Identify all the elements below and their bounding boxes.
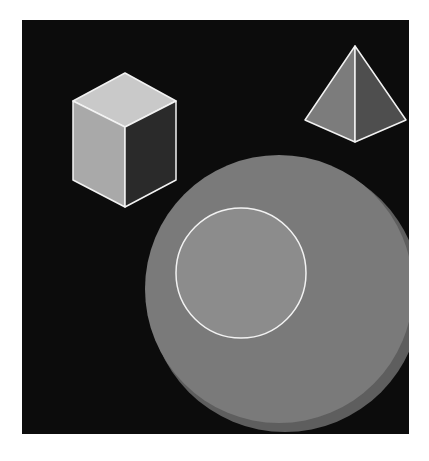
pyramid-left-face — [305, 46, 355, 142]
cube-shape — [73, 73, 176, 207]
pyramid-shape — [305, 46, 406, 142]
scene-canvas — [22, 20, 409, 434]
pyramid-right-face — [355, 46, 406, 142]
scene-svg — [22, 20, 409, 434]
inner-circle-shape — [176, 208, 306, 338]
